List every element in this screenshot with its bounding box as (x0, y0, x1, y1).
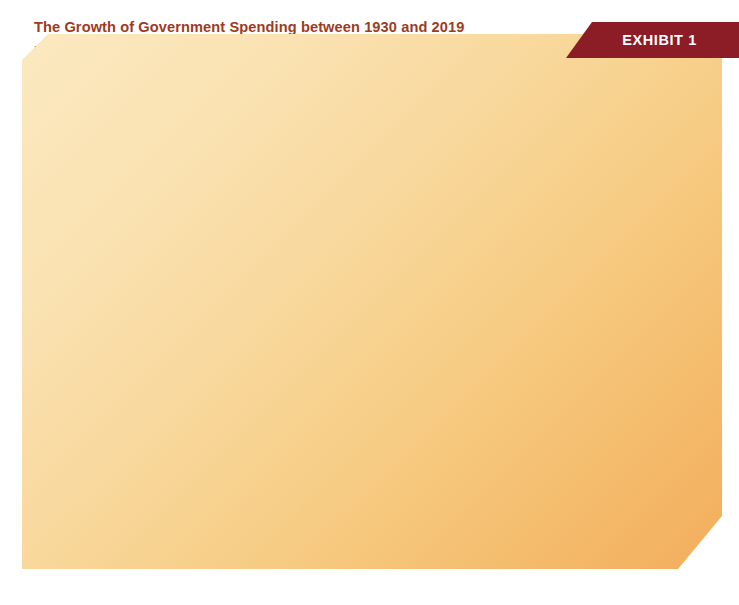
exhibit-card (22, 34, 722, 569)
page-title: The Growth of Government Spending betwee… (34, 19, 464, 35)
exhibit-page: EXHIBIT 1 The Growth of Government Spend… (0, 0, 739, 605)
exhibit-banner: EXHIBIT 1 (566, 22, 739, 58)
